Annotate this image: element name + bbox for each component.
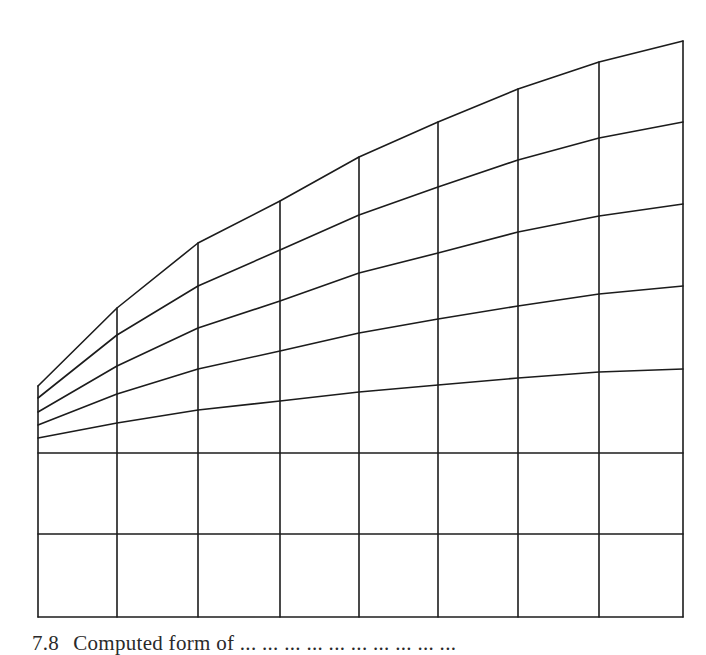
figure-number: 7.8 xyxy=(32,631,59,655)
vertical-grid-lines xyxy=(38,41,683,617)
curve-5 xyxy=(38,369,683,438)
curve-2 xyxy=(38,122,683,398)
curve-4 xyxy=(38,286,683,425)
curved-grid-lines xyxy=(38,41,683,438)
figure-caption: 7.8Computed form of ... ... ... ... ... … xyxy=(32,631,706,655)
horizontal-grid-lines xyxy=(38,453,683,617)
curve-3 xyxy=(38,204,683,412)
curve-1-top-boundary xyxy=(38,41,683,386)
caption-text: Computed form of ... ... ... ... ... ...… xyxy=(73,631,456,655)
